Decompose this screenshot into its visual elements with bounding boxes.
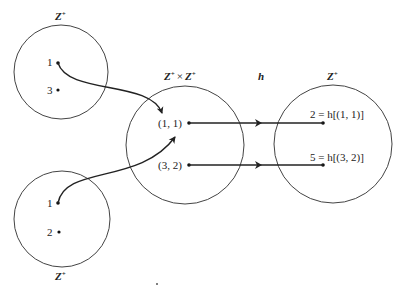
element-label: 1 — [47, 56, 53, 68]
set-circle — [14, 171, 110, 267]
element-label: (3, 2) — [158, 159, 182, 172]
set-circle — [126, 86, 244, 204]
set-right-codomain: Z+ 2 = h[(1, 1)] 5 = h[(3, 2)] — [274, 70, 392, 203]
element-dot — [57, 230, 60, 233]
set-label: Z+ — [326, 70, 338, 82]
stray-dot — [156, 283, 158, 285]
set-label: Z+ — [54, 270, 66, 282]
set-label: Z+ — [54, 10, 66, 22]
set-circle — [274, 85, 392, 203]
set-bottom-left: Z+ 1 2 — [14, 171, 110, 282]
element-label: 2 — [47, 226, 53, 238]
function-diagram: Z+ 1 3 Z+ 1 2 Z+×Z+ (1, 1) (3, 2) h Z+ 2… — [0, 0, 400, 290]
element-label: 2 = h[(1, 1)] — [310, 108, 364, 121]
element-dot — [56, 88, 59, 91]
set-middle-product: Z+×Z+ (1, 1) (3, 2) — [126, 70, 244, 204]
set-label: Z+×Z+ — [163, 70, 196, 82]
set-top-left: Z+ 1 3 — [14, 10, 108, 119]
element-label: 1 — [47, 197, 53, 209]
set-circle — [14, 25, 108, 119]
element-label: (1, 1) — [158, 117, 182, 130]
element-label: 5 = h[(3, 2)] — [310, 151, 364, 164]
function-label: h — [258, 70, 264, 82]
element-label: 3 — [47, 84, 53, 96]
pairing-arrow-top — [58, 63, 162, 113]
